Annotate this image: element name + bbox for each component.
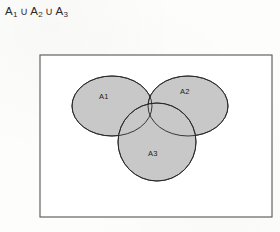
- venn-canvas: A1 A2 A3: [0, 0, 280, 232]
- set-a1-label: A1: [99, 92, 109, 101]
- set-a2-label: A2: [180, 87, 190, 96]
- set-a3-label: A3: [148, 149, 158, 158]
- venn-diagram-figure: A1∪A2∪A3 A1 A2 A3: [0, 0, 280, 232]
